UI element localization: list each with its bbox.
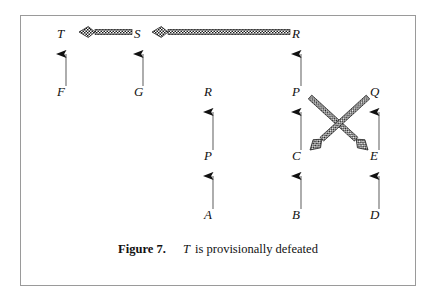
attack-arrow-layer [79,27,372,155]
attack-arrow-head [152,27,168,38]
node-label-g: G [134,85,143,98]
node-label-b: B [292,208,300,221]
node-label-r2: R [204,85,212,98]
caption-variable: T [169,242,192,256]
node-label-p2: P [204,149,212,162]
caption-number: Figure 7. [118,242,166,256]
node-label-a: A [204,208,212,221]
node-label-s: S [134,27,141,40]
node-label-q: Q [370,85,379,98]
attack-arrow-shaft [95,29,132,34]
attack-arrow-r1-to-s [152,27,290,38]
attack-arrow-shaft [308,95,358,141]
node-label-r1: R [292,27,300,40]
node-label-t: T [57,27,64,40]
figure-caption: Figure 7. T is provisionally defeated [20,243,416,257]
attack-arrow-shaft [168,29,290,34]
attack-arrow-shaft [320,95,370,141]
figure-container: TSRFGRPQPCEABD Figure 7. T is provisiona… [0,0,437,298]
node-label-p1: P [292,85,300,98]
node-label-d: D [370,208,379,221]
node-label-f: F [57,85,65,98]
node-label-e: E [370,149,378,162]
node-label-c: C [292,149,301,162]
attack-arrow-head [79,27,95,38]
attack-arrow-s-to-t [79,27,132,38]
caption-text: is provisionally defeated [195,242,318,256]
